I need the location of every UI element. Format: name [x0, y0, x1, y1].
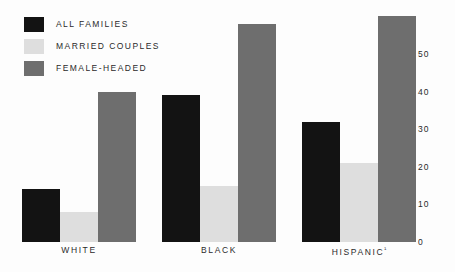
y-axis-tick: 40	[418, 88, 442, 97]
bar	[22, 189, 60, 242]
bar	[302, 122, 340, 242]
bar	[98, 92, 136, 242]
bar	[200, 186, 238, 242]
bar	[162, 95, 200, 242]
bar	[238, 24, 276, 242]
bar	[378, 16, 416, 242]
y-axis: 01020304050	[418, 0, 455, 272]
y-axis-tick: 0	[418, 238, 442, 247]
y-axis-tick: 50	[418, 50, 442, 59]
group-label: WHITE	[22, 246, 136, 255]
y-axis-tick: 20	[418, 163, 442, 172]
group-label: BLACK	[162, 246, 276, 255]
y-axis-tick: 10	[418, 200, 442, 209]
plot-area: WHITEBLACKHISPANIC¹	[0, 0, 455, 272]
group-label: HISPANIC¹	[302, 246, 416, 256]
bar-chart: ALL FAMILIES MARRIED COUPLES FEMALE-HEAD…	[0, 0, 455, 272]
bar	[340, 163, 378, 242]
bar	[60, 212, 98, 242]
y-axis-tick: 30	[418, 125, 442, 134]
